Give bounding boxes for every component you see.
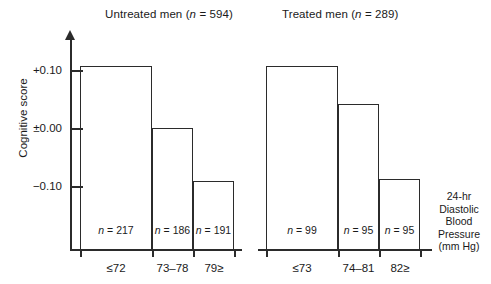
- italic-n-glyph: n: [98, 224, 104, 236]
- bar-count-treated-le73: n = 99: [266, 224, 338, 236]
- panel-title-untreated-suffix: = 594): [196, 8, 233, 20]
- x-tick-treated-2: [379, 249, 381, 257]
- bar-untreated-79plus[interactable]: [193, 181, 234, 250]
- x-label-treated-82plus: 82≥: [374, 262, 426, 274]
- panel-title-treated-prefix: Treated men (: [282, 8, 355, 20]
- italic-n-glyph: n: [155, 224, 161, 236]
- italic-n-glyph: n: [344, 224, 350, 236]
- x-tick-untreated-0: [80, 249, 82, 257]
- italic-n-glyph: n: [196, 224, 202, 236]
- count-value: = 191: [205, 224, 232, 236]
- count-value: = 99: [296, 224, 317, 236]
- x-axis-caption-line5: (mm Hg): [428, 240, 490, 253]
- chart-canvas: Untreated men (n = 594) Treated men (n =…: [0, 0, 491, 284]
- bar-untreated-le72[interactable]: [80, 66, 152, 250]
- count-value: = 186: [164, 224, 191, 236]
- bar-count-untreated-73-78: n = 186: [152, 224, 193, 236]
- italic-n-glyph: n: [287, 224, 293, 236]
- panel-title-untreated: Untreated men (n = 594): [105, 8, 233, 20]
- y-tick-label-neg010: −0.10: [20, 180, 62, 192]
- italic-n-glyph: n: [385, 224, 391, 236]
- panel-title-untreated-prefix: Untreated men (: [105, 8, 190, 20]
- bar-count-untreated-le72: n = 217: [80, 224, 152, 236]
- bar-treated-82plus[interactable]: [379, 179, 420, 250]
- bar-count-untreated-79plus: n = 191: [193, 224, 234, 236]
- y-axis-title: Cognitive score: [17, 58, 29, 178]
- x-axis-caption-line3: Blood: [428, 215, 490, 228]
- count-value: = 95: [353, 224, 374, 236]
- x-axis-caption-line1: 24-hr: [428, 190, 490, 203]
- panel-title-treated-suffix: = 289): [362, 8, 399, 20]
- x-label-untreated-79plus: 79≥: [188, 262, 240, 274]
- x-tick-treated-3: [420, 249, 422, 257]
- x-tick-untreated-1: [152, 249, 154, 257]
- count-value: = 95: [394, 224, 415, 236]
- panel-title-treated: Treated men (n = 289): [282, 8, 398, 20]
- x-tick-untreated-2: [193, 249, 195, 257]
- x-tick-treated-1: [338, 249, 340, 257]
- x-tick-treated-0: [266, 249, 268, 257]
- x-axis-caption-line4: Pressure: [428, 228, 490, 241]
- x-axis-caption: 24-hr Diastolic Blood Pressure (mm Hg): [428, 190, 490, 253]
- x-tick-untreated-3: [234, 249, 236, 257]
- x-axis-caption-line2: Diastolic: [428, 203, 490, 216]
- bar-count-treated-82plus: n = 95: [379, 224, 420, 236]
- bar-treated-le73[interactable]: [266, 66, 338, 250]
- bar-count-treated-74-81: n = 95: [338, 224, 379, 236]
- count-value: = 217: [107, 224, 134, 236]
